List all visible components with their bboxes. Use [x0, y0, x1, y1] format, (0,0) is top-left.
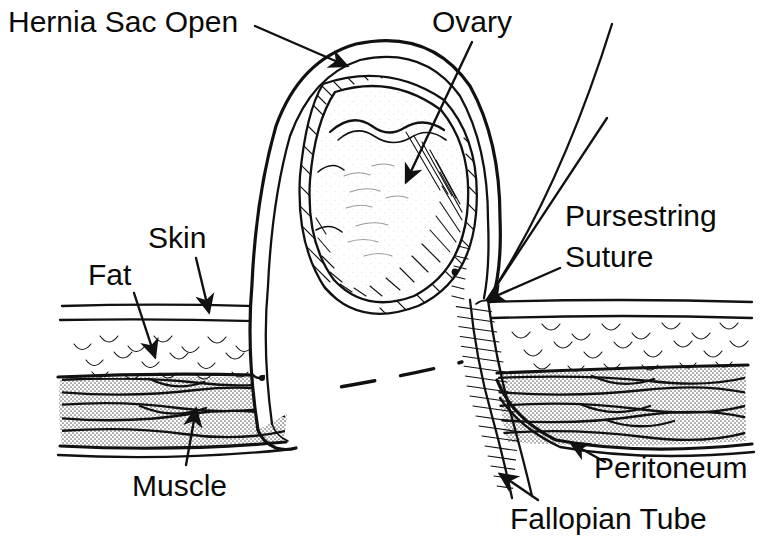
- ovary-node: [452, 269, 459, 276]
- label-peritoneum: Peritoneum: [594, 451, 747, 484]
- anatomical-figure: Hernia Sac Open Ovary Pursestring Suture…: [0, 0, 768, 555]
- sac-wall-node-left: [259, 375, 265, 381]
- label-fallopian-tube: Fallopian Tube: [510, 502, 707, 535]
- illustration-canvas: Hernia Sac Open Ovary Pursestring Suture…: [0, 0, 768, 555]
- label-skin: Skin: [148, 221, 206, 254]
- label-ovary: Ovary: [432, 5, 512, 38]
- muscle-layer-right: [494, 365, 752, 446]
- label-muscle: Muscle: [132, 469, 227, 502]
- label-suture: Suture: [565, 240, 653, 273]
- label-pursestring: Pursestring: [565, 199, 717, 232]
- label-hernia-sac-open: Hernia Sac Open: [8, 5, 238, 38]
- label-fat: Fat: [88, 258, 132, 291]
